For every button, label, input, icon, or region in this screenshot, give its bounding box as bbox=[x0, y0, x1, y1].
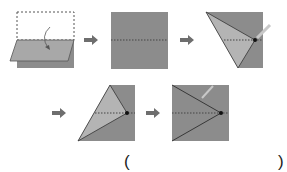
arrow-icon bbox=[84, 35, 98, 45]
step-1 bbox=[10, 12, 74, 68]
step-4 bbox=[78, 85, 135, 141]
answer-open-paren: ( bbox=[124, 152, 130, 172]
arrow-icon bbox=[52, 108, 66, 118]
step-5 bbox=[172, 85, 229, 141]
arrow-icon bbox=[146, 108, 160, 118]
answer-close-paren: ) bbox=[278, 152, 284, 172]
step-3 bbox=[206, 12, 270, 68]
arrow-icon bbox=[180, 35, 194, 45]
step-2 bbox=[111, 12, 168, 69]
origami-diagram bbox=[0, 0, 287, 172]
